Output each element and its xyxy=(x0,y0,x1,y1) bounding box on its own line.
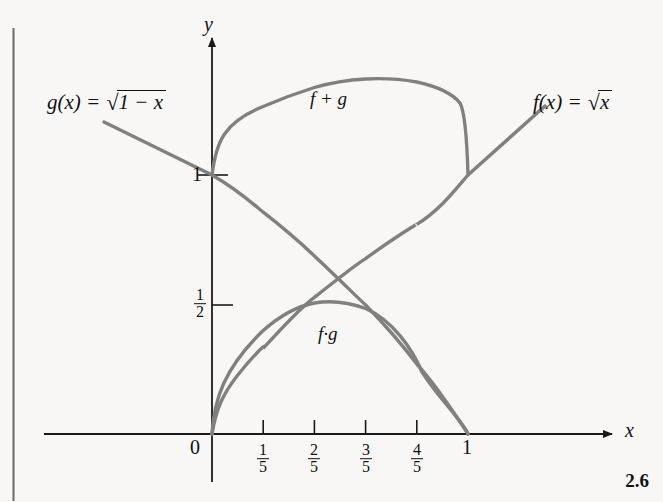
f-function-prefix: f(x) = xyxy=(533,90,587,114)
fraction-numerator: 3 xyxy=(360,442,372,459)
g-radicand: 1 − x xyxy=(117,90,167,113)
fraction-two-fifths: 2 5 xyxy=(308,442,320,476)
f-radicand: x xyxy=(598,90,612,113)
fraction-denominator: 5 xyxy=(257,460,269,476)
curve-label-f-times-g: f·g xyxy=(318,324,338,343)
curve-f-times-g xyxy=(212,302,468,434)
x-axis-label: x xyxy=(625,420,634,440)
fraction-denominator: 5 xyxy=(360,460,372,476)
fraction-half: 1 2 xyxy=(194,287,206,321)
g-function-prefix: g(x) = xyxy=(47,90,105,114)
y-tick-label-half: 1 2 xyxy=(194,288,206,322)
x-tick-label-3-5: 3 5 xyxy=(360,443,372,477)
y-tick-label-1: 1 xyxy=(192,164,202,184)
plot-canvas xyxy=(0,0,663,502)
curve-f xyxy=(212,106,545,434)
g-function-label: g(x) = √1 − x xyxy=(47,90,166,113)
x-tick-label-1-5: 1 5 xyxy=(257,443,269,477)
f-function-label: f(x) = √x xyxy=(533,90,612,113)
g-radical: √1 − x xyxy=(105,90,166,113)
fraction-denominator: 5 xyxy=(308,460,320,476)
fraction-denominator: 2 xyxy=(194,305,206,321)
fraction-numerator: 1 xyxy=(194,287,206,304)
fraction-four-fifths: 4 5 xyxy=(411,442,423,476)
fraction-denominator: 5 xyxy=(411,460,423,476)
f-radical: √x xyxy=(587,90,612,113)
fraction-numerator: 2 xyxy=(308,442,320,459)
fraction-numerator: 1 xyxy=(257,442,269,459)
curve-g xyxy=(104,122,468,434)
radical-sign: √ xyxy=(588,92,600,114)
x-tick-label-2-5: 2 5 xyxy=(308,443,320,477)
figure-number: 2.6 xyxy=(625,470,649,492)
fraction-one-fifth: 1 5 xyxy=(257,442,269,476)
radical-sign: √ xyxy=(106,92,118,114)
y-axis-label: y xyxy=(204,14,213,34)
curve-label-f-plus-g: f + g xyxy=(310,89,347,108)
fraction-three-fifths: 3 5 xyxy=(360,442,372,476)
fraction-numerator: 4 xyxy=(411,442,423,459)
x-tick-label-1: 1 xyxy=(462,437,472,457)
origin-tick-label: 0 xyxy=(190,437,200,457)
figure-container: y x 0 1 1 1 2 1 5 2 5 3 5 4 5 xyxy=(0,0,663,502)
x-tick-label-4-5: 4 5 xyxy=(411,443,423,477)
